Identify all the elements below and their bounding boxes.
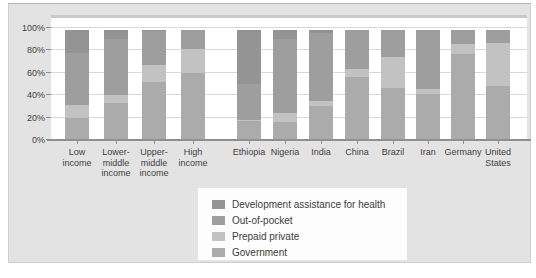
bar-nigeria [273, 30, 297, 140]
bar-segment-government [237, 121, 261, 140]
legend-item-prepaid_private: Prepaid private [212, 229, 407, 243]
bar-segment-government [309, 106, 333, 140]
y-axis-label: 0% [5, 135, 45, 145]
x-axis-label-high-income: High income [166, 147, 220, 168]
legend-label: Prepaid private [232, 231, 299, 242]
bar-iran [416, 30, 440, 140]
legend-item-out_of_pocket: Out-of-pocket [212, 213, 407, 227]
bar-segment-government [486, 86, 510, 140]
bar-segment-government [142, 82, 166, 140]
bar-segment-out_of_pocket [416, 30, 440, 88]
bar-segment-government [273, 122, 297, 140]
bar-segment-government [181, 73, 205, 140]
bar-segment-government [416, 94, 440, 140]
bar-segment-government [104, 103, 128, 140]
bar-low-income [65, 30, 89, 140]
bar-segment-dah [237, 30, 261, 84]
legend-label: Development assistance for health [232, 199, 385, 210]
legend-swatch-out_of_pocket [212, 216, 225, 225]
bar-segment-government [451, 54, 475, 140]
bar-segment-out_of_pocket [381, 30, 405, 57]
x-axis-line [47, 139, 531, 141]
y-axis-label: 80% [5, 45, 45, 55]
bar-segment-government [381, 88, 405, 140]
bar-segment-prepaid_private [273, 113, 297, 122]
bar-segment-out_of_pocket [486, 30, 510, 42]
bar-segment-out_of_pocket [181, 30, 205, 49]
legend-label: Government [232, 247, 287, 258]
bar-segment-out_of_pocket [309, 33, 333, 101]
bar-segment-prepaid_private [181, 49, 205, 73]
bar-segment-prepaid_private [345, 69, 369, 77]
chart-figure: 0%20%40%60%80%100%Low incomeLower- middl… [0, 0, 536, 278]
bar-segment-prepaid_private [142, 65, 166, 82]
bar-segment-out_of_pocket [142, 31, 166, 65]
bar-segment-out_of_pocket [104, 39, 128, 95]
bar-segment-dah [65, 30, 89, 52]
bar-high-income [181, 30, 205, 140]
plot-area: 0%20%40%60%80%100%Low incomeLower- middl… [51, 15, 527, 140]
bar-segment-out_of_pocket [65, 53, 89, 106]
y-axis-tick [46, 94, 51, 95]
bar-segment-dah [273, 30, 297, 39]
legend-item-government: Government [212, 245, 407, 259]
bar-germany [451, 30, 475, 140]
legend: Development assistance for healthOut-of-… [198, 188, 407, 260]
bar-segment-dah [104, 30, 128, 39]
bar-united-states [486, 30, 510, 140]
bar-india [309, 30, 333, 140]
y-axis-tick [46, 49, 51, 50]
legend-swatch-dah [212, 200, 225, 209]
legend-label: Out-of-pocket [232, 215, 293, 226]
bar-segment-out_of_pocket [451, 30, 475, 43]
bar-segment-prepaid_private [451, 44, 475, 54]
bar-segment-out_of_pocket [345, 30, 369, 69]
y-axis-label: 100% [5, 23, 45, 33]
chart-panel: 0%20%40%60%80%100%Low incomeLower- middl… [8, 3, 531, 263]
bar-segment-government [65, 118, 89, 140]
legend-swatch-prepaid_private [212, 232, 225, 241]
y-axis-label: 60% [5, 68, 45, 78]
legend-item-dah: Development assistance for health [212, 197, 407, 211]
y-axis-label: 40% [5, 90, 45, 100]
bar-segment-out_of_pocket [273, 39, 297, 113]
y-axis-tick [46, 117, 51, 118]
y-axis-tick [46, 72, 51, 73]
bar-segment-out_of_pocket [237, 84, 261, 120]
x-axis-label-united-states: United States [471, 147, 525, 168]
bar-ethiopia [237, 30, 261, 140]
bar-china [345, 30, 369, 140]
bar-segment-prepaid_private [104, 95, 128, 103]
bar-segment-prepaid_private [65, 105, 89, 117]
bar-lower-middle-income [104, 30, 128, 140]
bar-brazil [381, 30, 405, 140]
bar-upper-middle-income [142, 30, 166, 140]
y-axis-tick [46, 27, 51, 28]
gridline-100 [51, 27, 527, 28]
bar-segment-government [345, 77, 369, 140]
bar-segment-prepaid_private [381, 57, 405, 88]
y-axis-label: 20% [5, 113, 45, 123]
bar-segment-prepaid_private [486, 43, 510, 87]
legend-swatch-government [212, 248, 225, 257]
